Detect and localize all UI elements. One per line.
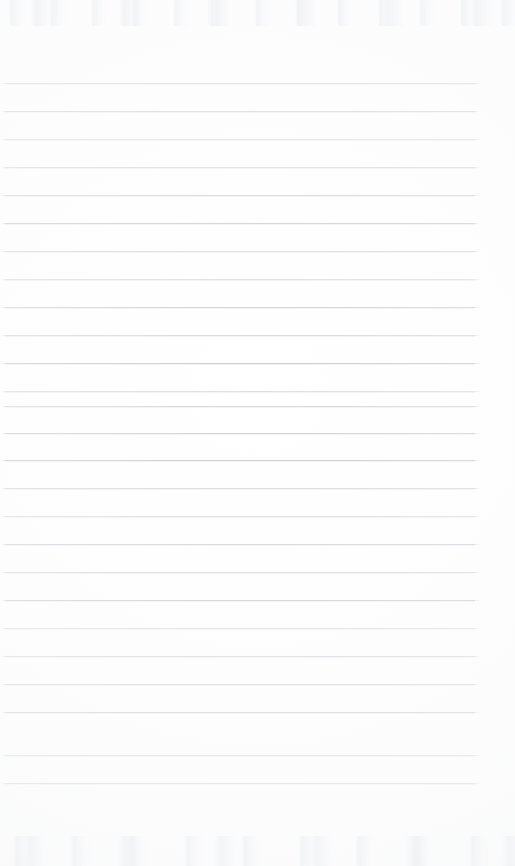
rule-line xyxy=(5,783,475,784)
rule-line xyxy=(5,628,475,629)
rule-line xyxy=(5,433,475,434)
rule-line xyxy=(5,335,475,336)
rule-line xyxy=(5,251,475,252)
rule-line xyxy=(5,684,475,685)
rule-line xyxy=(5,195,475,196)
rule-line xyxy=(5,139,475,140)
rule-line xyxy=(5,83,475,84)
rule-line xyxy=(5,656,475,657)
rule-line xyxy=(5,516,475,517)
rule-line xyxy=(5,755,475,756)
rule-line xyxy=(5,223,475,224)
rule-line xyxy=(5,111,475,112)
rule-line xyxy=(5,488,475,489)
rule-line xyxy=(5,406,475,407)
rule-line xyxy=(5,712,475,713)
scanned-notebook-page xyxy=(0,0,515,866)
rule-line xyxy=(5,279,475,280)
rule-line xyxy=(5,363,475,364)
rule-line xyxy=(5,544,475,545)
rule-line xyxy=(5,460,475,461)
ruled-lines-layer xyxy=(0,0,515,866)
rule-line xyxy=(5,572,475,573)
rule-line xyxy=(5,391,475,392)
rule-line xyxy=(5,307,475,308)
rule-line xyxy=(5,167,475,168)
rule-line xyxy=(5,600,475,601)
